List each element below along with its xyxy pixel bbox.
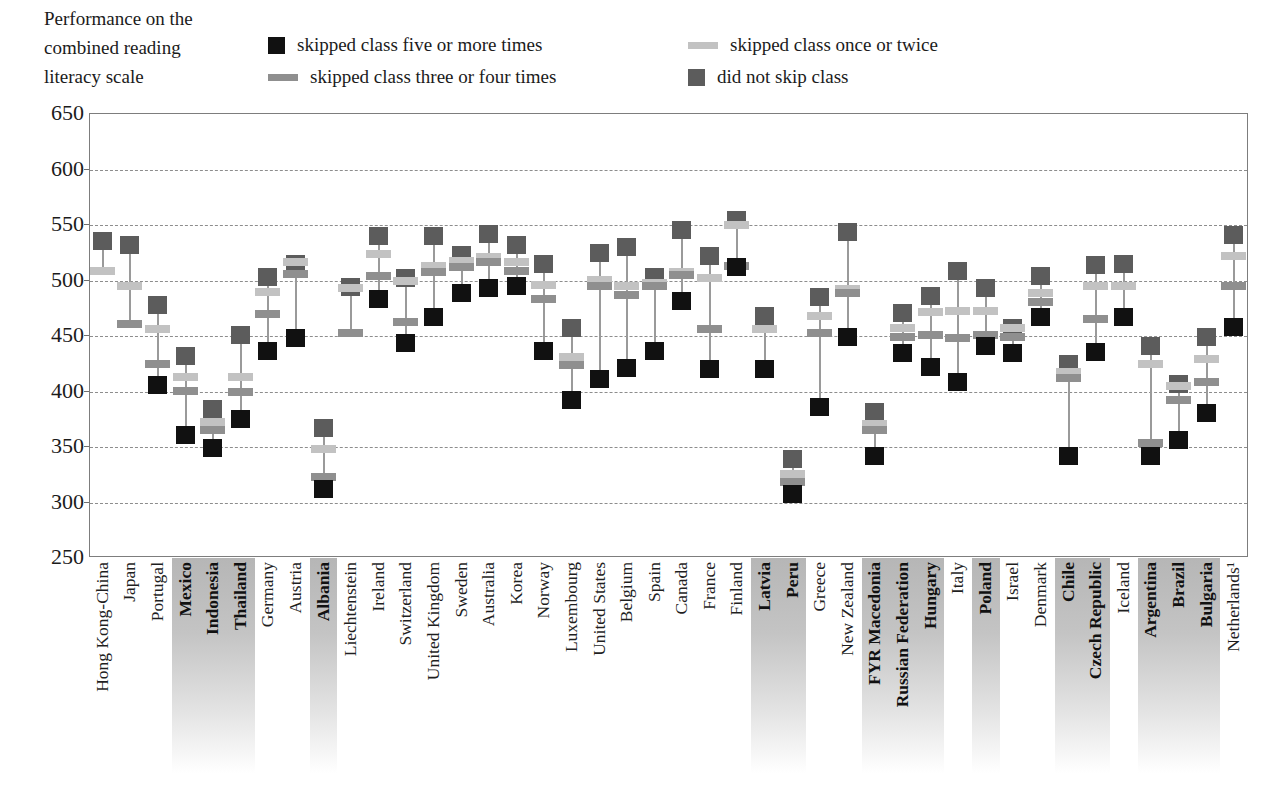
- marker-five_or_more[interactable]: [534, 342, 553, 360]
- marker-once_or_twice[interactable]: [393, 277, 418, 285]
- data-column[interactable]: [200, 113, 226, 557]
- data-column[interactable]: [90, 113, 116, 557]
- x-axis-label[interactable]: Greece: [807, 558, 833, 778]
- data-column[interactable]: [1111, 113, 1137, 557]
- marker-five_or_more[interactable]: [369, 290, 388, 308]
- data-column[interactable]: [117, 113, 143, 557]
- marker-did_not_skip[interactable]: [1224, 226, 1243, 244]
- x-axis-label[interactable]: Sweden: [449, 558, 475, 778]
- marker-did_not_skip[interactable]: [93, 232, 112, 250]
- marker-three_or_four[interactable]: [697, 325, 722, 333]
- data-column[interactable]: [255, 113, 281, 557]
- marker-did_not_skip[interactable]: [948, 262, 967, 280]
- marker-five_or_more[interactable]: [617, 359, 636, 377]
- marker-once_or_twice[interactable]: [531, 281, 556, 289]
- data-column[interactable]: [449, 113, 475, 557]
- marker-three_or_four[interactable]: [1028, 298, 1053, 306]
- marker-three_or_four[interactable]: [1000, 333, 1025, 341]
- marker-once_or_twice[interactable]: [1221, 252, 1246, 260]
- x-axis-label[interactable]: Russian Federation: [890, 558, 916, 778]
- data-column[interactable]: [145, 113, 171, 557]
- marker-five_or_more[interactable]: [286, 329, 305, 347]
- marker-did_not_skip[interactable]: [562, 319, 581, 337]
- marker-five_or_more[interactable]: [1141, 447, 1160, 465]
- x-axis-label[interactable]: Peru: [780, 558, 806, 778]
- marker-three_or_four[interactable]: [283, 270, 308, 278]
- marker-did_not_skip[interactable]: [893, 304, 912, 322]
- data-column[interactable]: [890, 113, 916, 557]
- marker-did_not_skip[interactable]: [424, 227, 443, 245]
- marker-three_or_four[interactable]: [1056, 374, 1081, 382]
- marker-three_or_four[interactable]: [228, 388, 253, 396]
- data-column[interactable]: [173, 113, 199, 557]
- x-axis-label[interactable]: Thailand: [228, 558, 254, 778]
- data-column[interactable]: [973, 113, 999, 557]
- marker-three_or_four[interactable]: [173, 387, 198, 395]
- marker-five_or_more[interactable]: [810, 398, 829, 416]
- x-axis-label[interactable]: Poland: [973, 558, 999, 778]
- data-column[interactable]: [835, 113, 861, 557]
- marker-three_or_four[interactable]: [945, 334, 970, 342]
- marker-five_or_more[interactable]: [452, 284, 471, 302]
- x-axis-label[interactable]: New Zealand: [835, 558, 861, 778]
- data-column[interactable]: [311, 113, 337, 557]
- x-axis-label[interactable]: Austria: [283, 558, 309, 778]
- marker-five_or_more[interactable]: [424, 308, 443, 326]
- marker-three_or_four[interactable]: [1221, 282, 1246, 290]
- marker-five_or_more[interactable]: [1003, 344, 1022, 362]
- data-column[interactable]: [945, 113, 971, 557]
- marker-five_or_more[interactable]: [921, 358, 940, 376]
- marker-three_or_four[interactable]: [476, 258, 501, 266]
- marker-did_not_skip[interactable]: [176, 347, 195, 365]
- marker-did_not_skip[interactable]: [976, 279, 995, 297]
- marker-once_or_twice[interactable]: [1000, 324, 1025, 332]
- marker-once_or_twice[interactable]: [228, 373, 253, 381]
- marker-once_or_twice[interactable]: [724, 221, 749, 229]
- data-column[interactable]: [642, 113, 668, 557]
- x-axis-label[interactable]: FYR Macedonia: [862, 558, 888, 778]
- marker-five_or_more[interactable]: [865, 447, 884, 465]
- marker-once_or_twice[interactable]: [311, 445, 336, 453]
- x-axis-label[interactable]: Japan: [117, 558, 143, 778]
- data-column[interactable]: [614, 113, 640, 557]
- marker-once_or_twice[interactable]: [200, 418, 225, 426]
- x-axis-label[interactable]: Iceland: [1111, 558, 1137, 778]
- marker-did_not_skip[interactable]: [672, 221, 691, 239]
- data-column[interactable]: [1138, 113, 1164, 557]
- x-axis-label[interactable]: United States: [587, 558, 613, 778]
- data-column[interactable]: [228, 113, 254, 557]
- marker-did_not_skip[interactable]: [1086, 256, 1105, 274]
- legend-item-three_or_four[interactable]: skipped class three or four times: [268, 66, 556, 88]
- marker-once_or_twice[interactable]: [255, 288, 280, 296]
- data-column[interactable]: [1028, 113, 1054, 557]
- marker-three_or_four[interactable]: [255, 310, 280, 318]
- marker-did_not_skip[interactable]: [231, 326, 250, 344]
- marker-three_or_four[interactable]: [862, 426, 887, 434]
- marker-five_or_more[interactable]: [645, 342, 664, 360]
- marker-five_or_more[interactable]: [727, 258, 746, 276]
- marker-once_or_twice[interactable]: [145, 325, 170, 333]
- marker-five_or_more[interactable]: [838, 328, 857, 346]
- marker-five_or_more[interactable]: [1059, 447, 1078, 465]
- marker-five_or_more[interactable]: [314, 480, 333, 498]
- marker-five_or_more[interactable]: [1169, 431, 1188, 449]
- marker-did_not_skip[interactable]: [369, 227, 388, 245]
- marker-three_or_four[interactable]: [200, 426, 225, 434]
- marker-five_or_more[interactable]: [783, 485, 802, 503]
- marker-did_not_skip[interactable]: [755, 307, 774, 325]
- marker-did_not_skip[interactable]: [810, 288, 829, 306]
- x-axis-label[interactable]: Denmark: [1028, 558, 1054, 778]
- marker-three_or_four[interactable]: [1166, 396, 1191, 404]
- marker-three_or_four[interactable]: [338, 329, 363, 337]
- marker-five_or_more[interactable]: [893, 344, 912, 362]
- x-axis-label[interactable]: Mexico: [173, 558, 199, 778]
- marker-did_not_skip[interactable]: [507, 236, 526, 254]
- marker-did_not_skip[interactable]: [921, 287, 940, 305]
- data-column[interactable]: [366, 113, 392, 557]
- x-axis-label[interactable]: Hungary: [918, 558, 944, 778]
- marker-once_or_twice[interactable]: [1028, 289, 1053, 297]
- marker-once_or_twice[interactable]: [504, 258, 529, 266]
- marker-three_or_four[interactable]: [918, 331, 943, 339]
- marker-three_or_four[interactable]: [587, 282, 612, 290]
- x-axis-label[interactable]: Albania: [311, 558, 337, 778]
